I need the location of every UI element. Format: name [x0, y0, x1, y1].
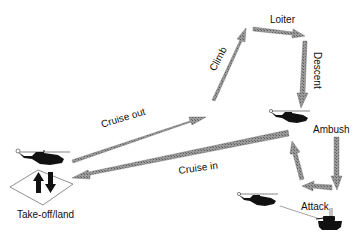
descent-arrow [297, 41, 308, 108]
label-descent: Descent [312, 52, 322, 89]
label-ambush: Ambush [313, 125, 350, 135]
mission-profile-diagram: Take-off/land Cruise out Climb Loiter De… [0, 0, 362, 235]
helicopter-icon [16, 149, 70, 165]
ambush-return-arrow [290, 141, 304, 180]
attack-return-arrow [302, 181, 332, 191]
diagram-canvas [0, 0, 362, 235]
helicopter-icon [237, 192, 278, 206]
takeoff-land-arrows-icon [33, 172, 56, 193]
label-loiter: Loiter [270, 15, 295, 25]
landing-pad-icon [10, 170, 73, 205]
label-attack: Attack [301, 202, 329, 212]
loiter-arrow [253, 27, 305, 38]
helicopter-icon [269, 109, 310, 123]
label-take-off-land: Take-off/land [17, 210, 74, 220]
ambush-descent-arrow [331, 137, 342, 190]
